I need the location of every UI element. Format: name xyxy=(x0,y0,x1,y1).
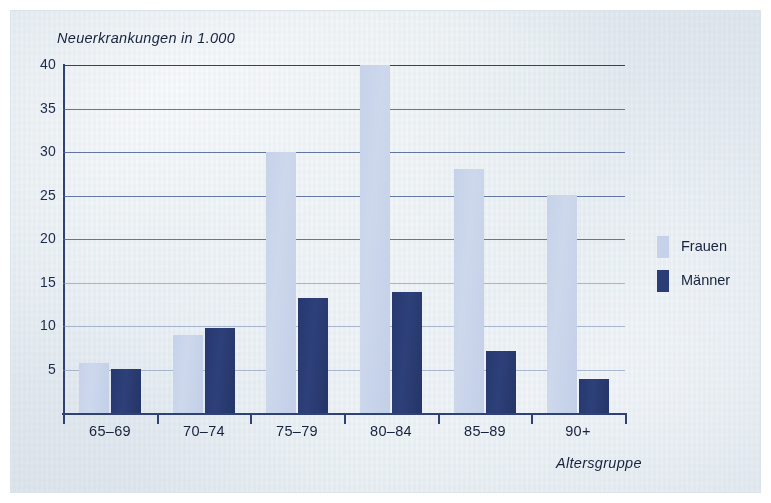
x-category-label-80–84: 80–84 xyxy=(344,423,438,439)
x-category-label-75–79: 75–79 xyxy=(250,423,344,439)
x-category-label-90+: 90+ xyxy=(531,423,625,439)
legend-swatch-männer xyxy=(657,270,669,292)
y-tick-label-40: 40 xyxy=(26,56,56,72)
legend-swatch-frauen xyxy=(657,236,669,258)
chart-legend: FrauenMänner xyxy=(657,234,757,302)
bar-männer-75–79 xyxy=(298,298,328,413)
x-category-label-70–74: 70–74 xyxy=(157,423,251,439)
bar-series-container xyxy=(63,65,625,413)
bar-männer-90+ xyxy=(579,379,609,413)
bar-frauen-70–74 xyxy=(173,335,203,413)
legend-item-männer: Männer xyxy=(657,268,757,302)
x-category-label-85–89: 85–89 xyxy=(438,423,532,439)
y-tick-label-25: 25 xyxy=(26,187,56,203)
y-tick-label-5: 5 xyxy=(26,361,56,377)
y-tick-label-20: 20 xyxy=(26,230,56,246)
legend-label-männer: Männer xyxy=(681,272,730,288)
x-tick-6 xyxy=(625,415,627,424)
y-axis-tick-labels: 510152025303540 xyxy=(20,0,56,503)
y-tick-label-10: 10 xyxy=(26,317,56,333)
bar-männer-70–74 xyxy=(205,328,235,413)
y-tick-label-15: 15 xyxy=(26,274,56,290)
legend-label-frauen: Frauen xyxy=(681,238,727,254)
x-category-label-65–69: 65–69 xyxy=(63,423,157,439)
chart-title: Neuerkrankungen in 1.000 xyxy=(57,30,235,46)
bar-männer-80–84 xyxy=(392,292,422,413)
bar-frauen-85–89 xyxy=(454,169,484,413)
y-tick-label-30: 30 xyxy=(26,143,56,159)
bar-männer-85–89 xyxy=(486,351,516,413)
bar-frauen-90+ xyxy=(547,195,577,413)
bar-frauen-65–69 xyxy=(79,363,109,413)
chart-screenshot: Neuerkrankungen in 1.000 510152025303540… xyxy=(0,0,771,503)
legend-item-frauen: Frauen xyxy=(657,234,757,268)
bar-frauen-80–84 xyxy=(360,65,390,413)
y-tick-label-35: 35 xyxy=(26,100,56,116)
bar-frauen-75–79 xyxy=(266,152,296,413)
bar-männer-65–69 xyxy=(111,369,141,413)
x-axis-title: Altersgruppe xyxy=(556,455,642,471)
